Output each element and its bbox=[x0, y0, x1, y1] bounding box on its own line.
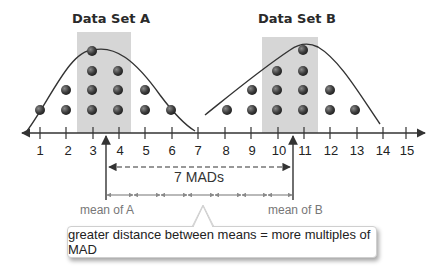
mean-b-label: mean of B bbox=[268, 203, 323, 217]
svg-text:2: 2 bbox=[64, 143, 71, 158]
title-data-set-a: Data Set A bbox=[72, 11, 150, 26]
axis-tick-labels: 1 2 3 4 5 6 7 8 9 10 11 12 13 14 15 bbox=[36, 143, 414, 158]
svg-text:6: 6 bbox=[168, 143, 175, 158]
mad-span-label: 7 MADs bbox=[174, 169, 224, 185]
shaded-region-a bbox=[77, 32, 131, 133]
svg-text:1: 1 bbox=[36, 143, 43, 158]
svg-text:8: 8 bbox=[222, 143, 229, 158]
mean-a-label: mean of A bbox=[80, 203, 134, 217]
svg-text:7: 7 bbox=[194, 143, 201, 158]
svg-text:13: 13 bbox=[350, 143, 364, 158]
svg-text:9: 9 bbox=[248, 143, 255, 158]
callout-pointer bbox=[192, 205, 214, 227]
svg-text:11: 11 bbox=[298, 143, 312, 158]
svg-text:4: 4 bbox=[116, 143, 123, 158]
svg-text:12: 12 bbox=[324, 143, 338, 158]
title-data-set-b: Data Set B bbox=[258, 11, 336, 26]
svg-text:15: 15 bbox=[400, 143, 414, 158]
shaded-region-b bbox=[262, 37, 318, 133]
svg-text:14: 14 bbox=[376, 143, 390, 158]
svg-text:5: 5 bbox=[142, 143, 149, 158]
callout-text: greater distance between means = more mu… bbox=[68, 227, 376, 257]
svg-text:10: 10 bbox=[272, 143, 286, 158]
callout-box: greater distance between means = more mu… bbox=[67, 226, 377, 258]
svg-text:3: 3 bbox=[89, 143, 96, 158]
